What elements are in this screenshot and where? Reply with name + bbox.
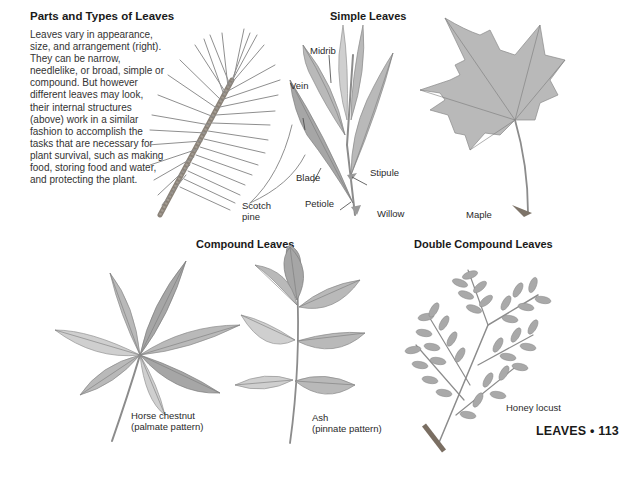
maple-illustration bbox=[420, 15, 600, 225]
simple-leaves-heading: Simple Leaves bbox=[330, 10, 406, 22]
willow-vein-label: Vein bbox=[290, 80, 309, 91]
willow-midrib-label: Midrib bbox=[310, 45, 336, 56]
horse-chestnut-label-line2: (palmate pattern) bbox=[131, 421, 203, 432]
willow-petiole-label: Petiole bbox=[305, 198, 334, 209]
folio-page-number: 113 bbox=[598, 424, 619, 438]
ash-label-line1: Ash bbox=[312, 412, 328, 423]
page-folio: LEAVES • 113 bbox=[536, 424, 619, 438]
willow-stipule-label: Stipule bbox=[370, 167, 399, 178]
willow-leader-lines bbox=[285, 25, 405, 225]
willow-label: Willow bbox=[377, 208, 404, 219]
maple-label: Maple bbox=[466, 209, 492, 220]
honey-locust-label: Honey locust bbox=[506, 402, 561, 413]
folio-separator: • bbox=[590, 424, 595, 438]
willow-blade-label: Blade bbox=[296, 172, 320, 183]
ash-label-line2: (pinnate pattern) bbox=[312, 423, 382, 434]
scotch-pine-illustration bbox=[140, 25, 300, 225]
horse-chestnut-label-line1: Horse chestnut bbox=[131, 410, 195, 421]
double-compound-leaves-heading: Double Compound Leaves bbox=[414, 238, 553, 250]
intro-title: Parts and Types of Leaves bbox=[30, 10, 174, 22]
scotch-pine-label-line1: Scotch bbox=[242, 200, 271, 211]
folio-section: LEAVES bbox=[536, 424, 586, 438]
scotch-pine-label-line2: pine bbox=[242, 211, 260, 222]
